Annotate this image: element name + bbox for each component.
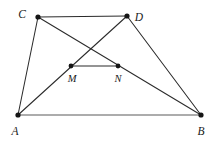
segment-AC xyxy=(18,17,38,115)
vertex-label-C: C xyxy=(18,8,26,20)
geometry-canvas: C D A B M N xyxy=(0,0,221,144)
vertex-dot-N xyxy=(116,64,121,69)
vertex-dot-B xyxy=(198,112,203,117)
vertex-dot-D xyxy=(124,13,129,18)
vertex-label-A: A xyxy=(10,125,19,137)
geometry-figure: C D A B M N xyxy=(0,0,221,144)
vertex-dot-M xyxy=(69,64,74,69)
vertex-label-N: N xyxy=(113,73,122,84)
vertex-label-M: M xyxy=(67,73,78,84)
vertex-dot-A xyxy=(15,112,20,117)
segment-CD xyxy=(38,16,127,17)
vertex-label-B: B xyxy=(197,125,204,137)
segment-DB xyxy=(127,16,201,115)
vertex-dot-C xyxy=(35,14,40,19)
vertex-label-D: D xyxy=(134,11,144,23)
